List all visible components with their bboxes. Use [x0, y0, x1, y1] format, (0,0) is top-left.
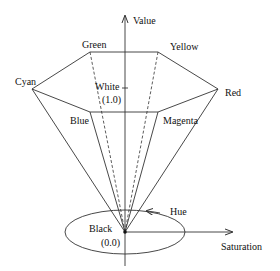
value-axis-label: Value	[133, 15, 156, 26]
saturation-axis-label: Saturation	[221, 241, 262, 252]
vertex-label-magenta: Magenta	[163, 115, 199, 126]
black-point	[123, 230, 127, 234]
vertex-label-red: Red	[225, 87, 241, 98]
vertex-label-green: Green	[82, 39, 106, 50]
hexcone-diagram: Value Green Yellow Cyan Red Blue Magenta…	[0, 0, 280, 271]
hidden-edges	[90, 52, 158, 232]
vertex-label-yellow: Yellow	[170, 41, 199, 52]
black-label: Black	[89, 223, 112, 234]
vertex-label-blue: Blue	[70, 115, 89, 126]
white-value: (1.0)	[102, 94, 121, 106]
vertex-label-cyan: Cyan	[15, 76, 36, 87]
hue-label: Hue	[170, 206, 187, 217]
white-label: White	[95, 81, 120, 92]
black-value: (0.0)	[101, 237, 120, 249]
